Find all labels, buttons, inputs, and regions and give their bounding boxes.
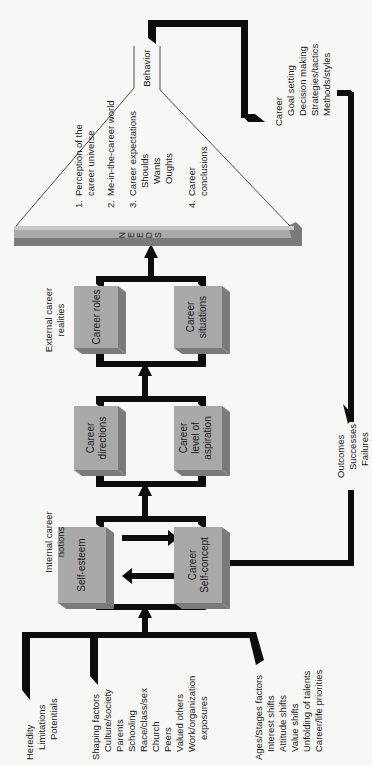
behavior-foot [241,114,265,122]
behavior-right-bar [241,20,248,118]
aspiration-line2: level of [190,422,201,454]
self-concept-line2: Self-concept [199,537,210,593]
aspiration-line1: Career [178,422,189,453]
behavior-top-left [148,20,156,44]
cone-item-2-num: 2. [105,200,116,208]
aspiration-line3: aspiration [202,416,213,459]
external-heading-line2: realities [55,303,66,336]
heredity-item-2: Potentials [48,698,59,740]
roles-label: Career roles [91,289,102,344]
heredity-connector [22,632,80,638]
shaping-item-3: Schooling [126,710,137,752]
feedback-return-bar [222,560,354,566]
directions-line1: Career [85,422,96,453]
cone-item-3-num: 3. [127,200,138,208]
outcomes-title: Outcomes [335,434,346,478]
feedback-down-bar [348,92,354,422]
stage3-top-bar [96,276,206,282]
box-career-self-concept: Career Self-concept [174,527,230,609]
box-career-roles: Career roles [74,286,126,354]
ages-item-1: Interest shifts [265,695,276,752]
shaping-item-7: Valued others [174,694,185,752]
ages-item-2: Attitude shifts [277,695,288,752]
stage2-bottom-bar [96,481,206,487]
box-career-situations: Career situations [174,286,230,354]
cone-item-3-sub-1: Shoulds [139,153,150,188]
input-trunk [90,632,255,638]
cone-item-2-line1: Me-in-the-career world [105,100,116,196]
ages-item-3: Value shifts [289,703,300,752]
esteem-to-concept-bar [122,535,170,541]
shaping-item-5: Church [150,721,161,752]
stage1-top-bar [96,516,206,522]
shaping-item-8: Work/organization [186,676,197,752]
cone-outline [16,46,290,226]
career-development-diagram: Self-esteem Career Self-concept Career d… [0,0,372,766]
concept-to-esteem-arrow [122,568,132,584]
ages-item-5: Career/life priorities [313,669,324,752]
shaping-drop [90,632,98,685]
directions-line2: directions [97,417,108,460]
shaping-item-1: Culture/society [102,689,113,752]
cone-item-4-num: 4. [186,200,197,208]
needs-arrowhead [144,244,158,258]
outcomes-down-bar [348,490,354,566]
ages-drop [248,632,264,665]
heredity-item-1: Limitations [36,704,47,750]
box-career-directions: Career directions [74,406,126,476]
box-self-esteem: Self-esteem [58,527,114,609]
cone-item-3-line1: Career expectations [127,111,138,196]
behavior-item-1: Goal setting [285,65,296,116]
internal-heading-line2: notions [55,526,66,557]
box-career-aspiration: Career level of aspiration [174,406,230,476]
behavior-item-2: Decision making [297,46,308,116]
stage3-bottom-bar [96,361,206,367]
shaping-title: Shaping factors [90,694,101,760]
shaping-item-4: Race/class/sex [138,688,149,752]
situations-line1: Career [185,301,196,332]
cone-item-4-line1: Career [186,167,197,196]
behavior-apex-label: Behavior [141,49,152,87]
behavior-item-4: Methods/styles [321,52,332,116]
cone-item-1-line1: Perception of the [73,124,84,196]
cone-item-1-num: 1. [73,200,84,208]
ages-title: Ages/Stages factors [253,675,264,760]
cone-item-1-line2: career universe [85,131,96,196]
internal-heading-line1: Internal career [43,511,54,572]
situations-line2: situations [197,296,208,338]
behavior-item-3: Strategies/tactics [309,43,320,116]
stage2-top-bar [96,396,206,402]
concept-to-esteem-bar [130,573,178,579]
behavior-title: Career [273,97,284,126]
cone-item-3-sub-3: Oughts [163,153,174,184]
outcomes-item-2: Failures [359,432,370,466]
trunk-join [80,632,92,638]
shaping-item-6: Peers [162,727,173,752]
heredity-drop [22,632,30,700]
shaping-item-9: exposures [198,696,209,740]
behavior-top-bar [150,20,247,27]
external-heading-line1: External career [43,288,54,352]
outcomes-item-1: Successes [347,424,358,470]
heredity-title: Heredity [24,724,35,760]
self-esteem-label: Self-esteem [76,538,87,591]
cone-item-3-sub-2: Wants [151,157,162,184]
needs-letter-s: S [153,232,163,238]
ages-item-4: Unfolding of talents [301,670,312,752]
cone-item-4-line2: conclusions [198,146,209,196]
shaping-item-2: Parents [114,719,125,752]
self-concept-line1: Career [187,549,198,580]
